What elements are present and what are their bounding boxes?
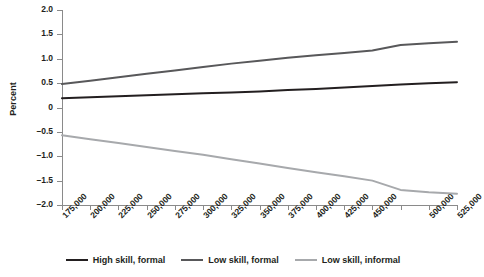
legend-label: Low skill, informal [322,255,401,265]
legend-swatch-icon [66,259,88,261]
legend-item[interactable]: High skill, formal [66,255,166,265]
legend-item[interactable]: Low skill, formal [181,255,279,265]
series-line [62,135,457,194]
series-line [62,42,457,84]
legend-item[interactable]: Low skill, informal [295,255,401,265]
legend-label: High skill, formal [93,255,166,265]
chart-legend: High skill, formalLow skill, formalLow s… [0,255,466,265]
legend-swatch-icon [295,259,317,261]
legend-swatch-icon [181,259,203,261]
series-line [62,82,457,98]
legend-label: Low skill, formal [208,255,279,265]
